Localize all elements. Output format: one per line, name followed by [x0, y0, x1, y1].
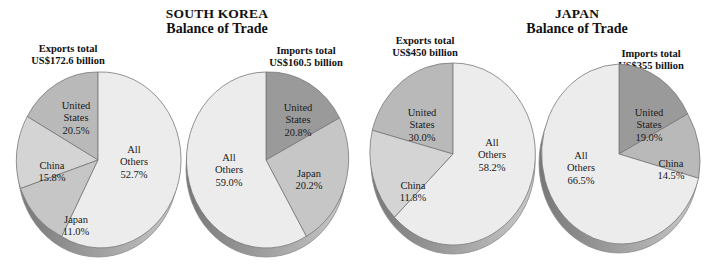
japan-exports-total-label: Exports total US$450 billion — [369, 35, 481, 60]
japan-exports-total-line2: US$450 billion — [369, 47, 481, 59]
pie-slices — [370, 63, 536, 245]
pie-slices — [16, 72, 181, 248]
korea-imports-total-line1: Imports total — [250, 45, 362, 57]
chart-title-line2: Balance of Trade — [152, 21, 282, 37]
pie-japan-imports-svg — [533, 60, 709, 260]
chart-title-line1: SOUTH KOREA — [152, 6, 282, 21]
chart-title-line1: JAPAN — [512, 6, 642, 21]
pie-chart-japan-imports: United States 19.0% China 14.5% All Othe… — [533, 60, 709, 260]
korea-exports-total-label: Exports total US$172.6 billion — [12, 43, 124, 68]
chart-title-japan: JAPAN Balance of Trade — [512, 6, 642, 37]
panel-japan: JAPAN Balance of Trade Exports total US$… — [355, 0, 709, 267]
japan-exports-total-line1: Exports total — [369, 35, 481, 47]
korea-imports-total-label: Imports total US$160.5 billion — [250, 45, 362, 70]
chart-title-line2: Balance of Trade — [512, 21, 642, 37]
pie-slices — [186, 72, 348, 248]
pie-chart-korea-imports: United States 20.8% Japan 20.2% All Othe… — [182, 70, 354, 262]
korea-imports-total-line2: US$160.5 billion — [250, 57, 362, 69]
chart-title-south-korea: SOUTH KOREA Balance of Trade — [152, 6, 282, 37]
pie-korea-imports-svg — [182, 70, 354, 262]
korea-exports-total-line2: US$172.6 billion — [12, 55, 124, 67]
panel-south-korea: SOUTH KOREA Balance of Trade Exports tot… — [0, 0, 354, 267]
pie-korea-exports-svg — [14, 70, 186, 262]
pie-slices — [542, 64, 700, 244]
pie-chart-japan-exports: United States 30.0% China 11.8% All Othe… — [367, 60, 543, 260]
pie-japan-exports-svg — [367, 60, 543, 260]
korea-exports-total-line1: Exports total — [12, 43, 124, 55]
japan-imports-total-line1: Imports total — [595, 48, 707, 60]
pie-chart-korea-exports: United States 20.5% China 15.8% Japan 11… — [14, 70, 186, 262]
